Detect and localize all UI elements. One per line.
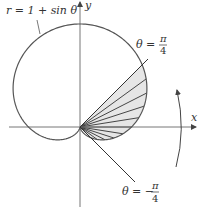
rotation-arrow: [176, 90, 181, 167]
upper-ray-denominator: 4: [160, 45, 166, 56]
upper-ray-numerator: π: [159, 33, 167, 44]
y-axis-label: y: [84, 0, 92, 12]
lower-ray-numerator: π: [151, 180, 159, 191]
curve-label-leader: [37, 20, 40, 34]
curve-label: r = 1 + sin θ: [6, 4, 77, 17]
polar-area-figure: r = 1 + sin θ y x θ = π 4 θ = − π 4: [0, 0, 199, 207]
lower-ray-prefix: θ = −: [122, 185, 154, 198]
x-axis-label: x: [191, 111, 198, 124]
upper-ray-prefix: θ =: [136, 38, 155, 51]
lower-ray-denominator: 4: [152, 193, 158, 204]
